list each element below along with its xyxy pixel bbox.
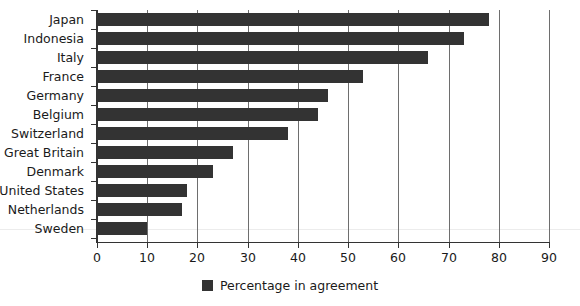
x-axis-tick-label: 70 [429, 250, 469, 265]
y-axis-tick [91, 86, 97, 87]
bar [97, 51, 428, 64]
y-axis-tick [91, 29, 97, 30]
x-axis-tick [298, 242, 299, 248]
plot-area [97, 10, 549, 242]
gridline [549, 10, 550, 242]
y-axis-label: United States [0, 181, 84, 200]
y-axis-label: Great Britain [4, 143, 84, 162]
y-axis-label: France [42, 67, 84, 86]
x-axis-tick [197, 242, 198, 248]
y-axis-tick [91, 219, 97, 220]
y-axis-label: Japan [49, 10, 84, 29]
x-axis-tick-label: 30 [228, 250, 268, 265]
legend-label: Percentage in agreement [220, 278, 378, 293]
x-axis-tick [248, 242, 249, 248]
y-axis-tick [91, 105, 97, 106]
bar [97, 203, 182, 216]
y-axis-tick [91, 200, 97, 201]
y-axis-tick [91, 181, 97, 182]
bar [97, 108, 318, 121]
y-axis-tick [91, 238, 97, 239]
y-axis-label: Netherlands [8, 200, 84, 219]
y-axis-label: Sweden [35, 219, 84, 238]
bar [97, 127, 288, 140]
x-axis-tick-label: 20 [177, 250, 217, 265]
x-axis-tick-label: 10 [127, 250, 167, 265]
bar [97, 184, 187, 197]
y-axis-tick [91, 124, 97, 125]
x-axis-tick [147, 242, 148, 248]
y-axis-tick [91, 67, 97, 68]
x-axis-tick-label: 0 [77, 250, 117, 265]
y-axis-tick [91, 162, 97, 163]
y-axis-label: Denmark [27, 162, 84, 181]
x-axis-tick [348, 242, 349, 248]
bar [97, 32, 464, 45]
y-axis-label: Belgium [33, 105, 84, 124]
y-axis-label: Germany [27, 86, 84, 105]
bar [97, 13, 489, 26]
y-axis-label: Indonesia [24, 29, 84, 48]
bar [97, 222, 147, 235]
bar [97, 146, 233, 159]
x-axis-tick [499, 242, 500, 248]
bar-series [97, 10, 549, 242]
y-axis-category-labels: JapanIndonesiaItalyFranceGermanyBelgiumS… [0, 10, 92, 242]
x-axis-tick [549, 242, 550, 248]
bar [97, 165, 213, 178]
y-axis-label: Switzerland [11, 124, 84, 143]
x-axis-spine [96, 242, 550, 243]
x-axis-tick [97, 242, 98, 248]
y-axis-spine [96, 10, 97, 242]
x-axis-tick [449, 242, 450, 248]
horizontal-bar-chart: JapanIndonesiaItalyFranceGermanyBelgiumS… [0, 0, 580, 306]
bar [97, 89, 328, 102]
bar [97, 70, 363, 83]
x-axis-tick-label: 80 [479, 250, 519, 265]
chart-legend: Percentage in agreement [0, 278, 580, 293]
y-axis-tick [91, 10, 97, 11]
x-axis-tick-label: 90 [529, 250, 569, 265]
y-axis-tick [91, 48, 97, 49]
y-axis-tick [91, 143, 97, 144]
x-axis-tick-label: 60 [378, 250, 418, 265]
y-axis-label: Italy [57, 48, 84, 67]
x-axis-tick [398, 242, 399, 248]
legend-swatch-percentage-in-agreement [202, 280, 213, 291]
x-axis-tick-label: 50 [328, 250, 368, 265]
x-axis-tick-label: 40 [278, 250, 318, 265]
